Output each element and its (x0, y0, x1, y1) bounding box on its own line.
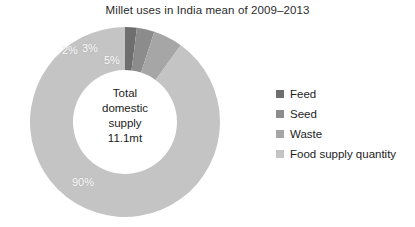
legend-swatch-icon-food-supply-quantity (276, 150, 284, 158)
donut-chart: Millet uses in India mean of 2009–2013 2… (0, 0, 415, 227)
slice-label-food-supply-quantity: 90% (72, 176, 94, 188)
center-annotation: Total domestic supply 11.1mt (75, 86, 175, 146)
legend-label-waste: Waste (290, 128, 322, 141)
center-annotation-line-2: domestic (75, 101, 175, 116)
legend-item-food-supply-quantity[interactable]: Food supply quantity (276, 144, 408, 164)
legend-swatch-icon-feed (276, 90, 284, 98)
center-annotation-line-1: Total (75, 86, 175, 101)
chart-legend: Feed Seed Waste Food supply quantity (276, 84, 408, 164)
chart-title: Millet uses in India mean of 2009–2013 (0, 3, 415, 17)
legend-label-seed: Seed (290, 108, 317, 121)
legend-item-feed[interactable]: Feed (276, 84, 408, 104)
center-annotation-total-value: 11.1mt (75, 131, 175, 146)
slice-label-waste: 5% (104, 54, 120, 66)
slice-label-feed: 2% (62, 44, 78, 56)
legend-label-feed: Feed (290, 88, 316, 101)
legend-label-food-supply-quantity: Food supply quantity (290, 148, 396, 161)
legend-swatch-icon-waste (276, 130, 284, 138)
donut-plot-area: 2% 3% 5% 90% Total domestic supply 11.1m… (16, 24, 234, 220)
legend-item-waste[interactable]: Waste (276, 124, 408, 144)
center-annotation-line-3: supply (75, 116, 175, 131)
legend-item-seed[interactable]: Seed (276, 104, 408, 124)
slice-label-seed: 3% (82, 42, 98, 54)
legend-swatch-icon-seed (276, 110, 284, 118)
